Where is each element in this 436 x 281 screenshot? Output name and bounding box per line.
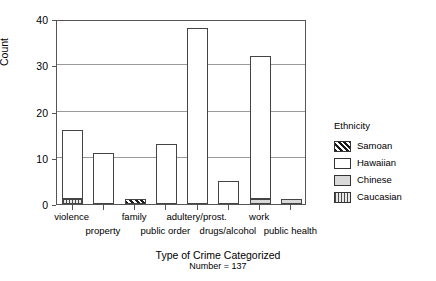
bar-stack [281,19,302,204]
x-tick-mark [134,205,135,210]
legend-entries: SamoanHawaiianChineseCaucasian [334,139,434,207]
legend-title: Ethnicity [334,120,370,131]
bar-segment [93,153,114,204]
bar-segment [187,28,208,204]
legend-swatch [334,192,351,203]
x-axis-title: Type of Crime Categorized [0,249,436,261]
x-axis-subtitle: Number = 137 [0,261,436,271]
bar-stack [187,19,208,204]
plot-area [56,20,306,205]
bar-segment [62,199,83,204]
legend-label: Caucasian [357,191,402,202]
bar-stack [156,19,177,204]
y-tick-mark [52,205,56,206]
legend: Ethnicity SamoanHawaiianChineseCaucasian [334,139,434,207]
bar-stack [250,19,271,204]
x-tick-label: public health [245,225,335,236]
y-tick-label: 40 [18,15,48,25]
bar-stack [62,19,83,204]
bar-segment [125,199,146,204]
bar-stack [218,19,239,204]
legend-label: Samoan [357,140,392,151]
x-tick-mark [290,205,291,210]
y-tick-label: 10 [18,154,48,164]
x-tick-mark [228,205,229,210]
legend-label: Hawaiian [357,157,396,168]
bar-segment [281,199,302,204]
bar-segment [156,144,177,204]
legend-swatch [334,158,351,169]
y-tick-label: 20 [18,108,48,118]
x-tick-mark [165,205,166,210]
chart-figure: Count 010203040 violencepropertyfamilypu… [0,0,436,281]
legend-entry: Hawaiian [334,156,434,173]
legend-entry: Caucasian [334,190,434,207]
y-tick-label: 30 [18,61,48,71]
legend-label: Chinese [357,174,392,185]
x-tick-mark [259,205,260,210]
bar-segment [218,181,239,204]
x-tick-mark [197,205,198,210]
bar-segment [250,56,271,199]
y-axis-title: Count [0,12,10,92]
y-tick-label: 0 [18,200,48,210]
legend-entry: Chinese [334,173,434,190]
x-tick-mark [72,205,73,210]
legend-entry: Samoan [334,139,434,156]
bar-segment [62,130,83,199]
bar-stack [93,19,114,204]
legend-swatch [334,141,351,152]
bar-segment [250,199,271,204]
x-tick-mark [103,205,104,210]
bar-stack [125,19,146,204]
x-tick-label: work [214,211,304,222]
legend-swatch [334,175,351,186]
